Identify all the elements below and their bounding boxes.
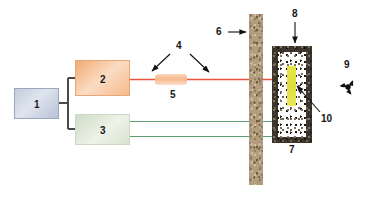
annotation-layer (0, 0, 371, 199)
label-8: 8 (292, 9, 298, 19)
label-7: 7 (289, 145, 295, 155)
pointer-10-arrow (297, 86, 320, 112)
pointer-4-right-arrow (190, 54, 209, 72)
label-10: 10 (321, 114, 332, 124)
schematic-diagram: 1 2 3 (0, 0, 371, 199)
label-6: 6 (216, 27, 222, 37)
radiation-trefoil-icon (333, 72, 363, 102)
label-4: 4 (176, 41, 182, 51)
label-5: 5 (170, 90, 176, 100)
label-9: 9 (344, 60, 350, 70)
pointer-4-left-arrow (152, 54, 170, 71)
